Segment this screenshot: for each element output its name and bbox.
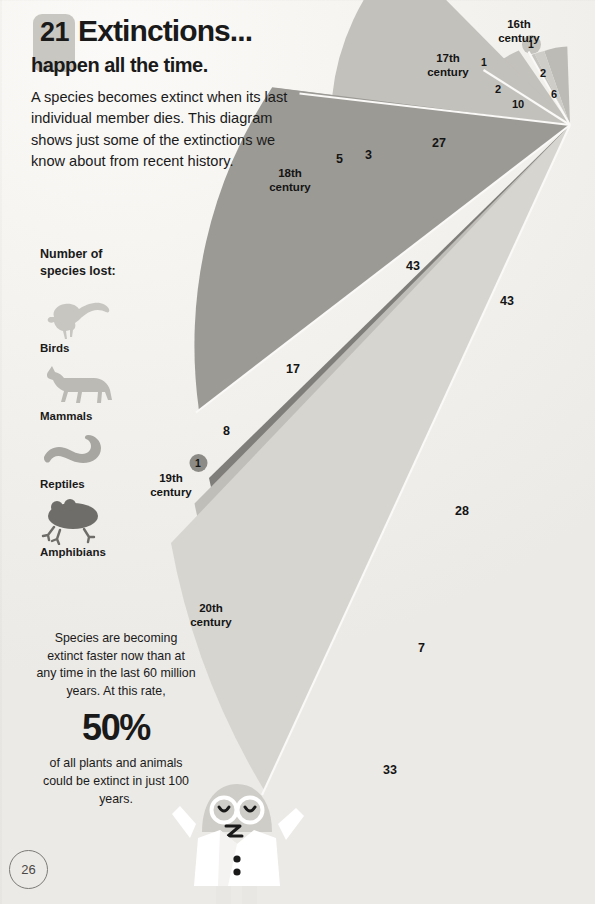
headline-block: 21Extinctions... happen all the time. A … [28,14,348,173]
legend-item-mammals: Mammals [40,363,180,422]
value-19th-birds: 1 [195,457,201,469]
page-number: 26 [9,850,48,889]
value-18th-reptiles: 27 [432,136,446,150]
value-18th-mammals: 3 [365,148,372,162]
page-subtitle: happen all the time. [31,54,348,77]
value-20th-mammals: 28 [455,504,469,518]
factbox-stat: 50% [36,707,196,749]
scientist-character [168,766,306,904]
factbox-lead: Species are becoming extinct faster now … [36,630,196,700]
value-19th-reptiles: 17 [286,362,300,376]
era-label-18th-century: 18th century [257,167,323,195]
kiwi-bird-icon [40,295,180,341]
value-19th-mammals: 8 [223,424,230,438]
page-title: Extinctions... [78,14,252,48]
value-20th-reptiles: 7 [418,641,425,655]
value-19th-amphibians: 43 [406,259,420,273]
era-label-16th-century: 16th century [486,18,552,46]
legend: Number of species lost: Birds Mammals Re… [40,246,180,567]
value-17th-birds: 1 [481,56,487,68]
legend-label-mammals: Mammals [40,410,180,422]
legend-item-birds: Birds [40,295,180,354]
value-16th-mammals: 2 [540,67,546,79]
legend-label-birds: Birds [40,342,180,354]
horse-icon [40,363,180,409]
value-20th-birds: 43 [500,294,514,308]
era-label-17th-century: 17th century [415,52,481,80]
legend-title: Number of species lost: [40,246,180,279]
value-18th-birds: 5 [336,152,343,166]
era-label-20th-century: 20th century [178,602,244,630]
snake-icon [40,431,180,477]
value-17th-mammals: 2 [495,83,501,95]
intro-paragraph: A species becomes extinct when its last … [31,87,299,173]
era-label-19th-century: 19th century [138,472,204,500]
value-17th-reptiles: 10 [512,98,524,110]
chapter-number: 21 [40,17,69,48]
frog-icon [40,499,180,545]
value-16th-reptiles: 6 [551,88,557,100]
value-20th-amphibians: 33 [383,763,397,777]
legend-label-amphibians: Amphibians [40,546,180,558]
value-16th-birds: 1 [528,38,534,50]
legend-item-amphibians: Amphibians [40,499,180,558]
